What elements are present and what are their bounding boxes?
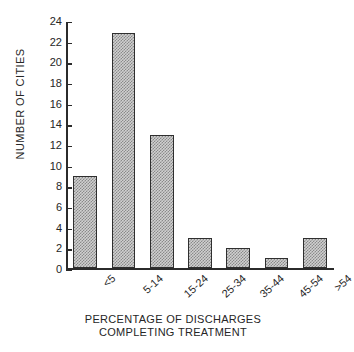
bar [265,258,289,268]
y-axis-tick-label: 2 [40,242,62,255]
x-axis-tick-label: 35-44 [258,272,287,300]
x-axis-tick-label: <5 [100,272,117,289]
bar [112,33,136,269]
y-axis-tick-label: 4 [40,222,62,235]
bar [226,248,250,269]
x-axis-tick-label: 25-34 [219,272,248,300]
bar [73,176,97,268]
y-axis-tick-label: 10 [40,160,62,173]
y-axis-title: NUMBER OF CITIES [14,4,26,204]
x-axis-tick-label: 45-54 [296,272,325,300]
x-axis-tick-label: 5-14 [141,272,165,296]
bar [150,135,174,268]
bar [303,238,327,269]
y-axis-tick-label: 20 [40,56,62,69]
y-axis-tick-label: 12 [40,139,62,152]
bars-group [66,22,334,268]
x-axis-tick-label: >54 [332,272,354,293]
y-axis-tick-label: 16 [40,98,62,111]
x-axis-title: PERCENTAGE OF DISCHARGES COMPLETING TREA… [0,313,346,339]
y-axis-tick-label: 18 [40,77,62,90]
y-axis-tick-label: 24 [40,15,62,28]
x-axis-title-line-1: PERCENTAGE OF DISCHARGES [85,313,261,325]
bar [188,238,212,269]
y-axis-tick-label: 6 [40,201,62,214]
y-axis-tick-label: 8 [40,180,62,193]
x-axis-line [66,268,334,270]
y-axis-tick-label: 0 [40,263,62,276]
y-axis-tick-label: 22 [40,36,62,49]
y-axis-tick-label: 14 [40,118,62,131]
plot-area: 024681012141618202224 [66,22,334,270]
x-axis-title-line-2: COMPLETING TREATMENT [0,326,346,339]
x-axis-tick-labels: <55-1415-2425-3435-4445-54>54 [66,272,334,312]
x-axis-tick-label: 15-24 [181,272,210,300]
